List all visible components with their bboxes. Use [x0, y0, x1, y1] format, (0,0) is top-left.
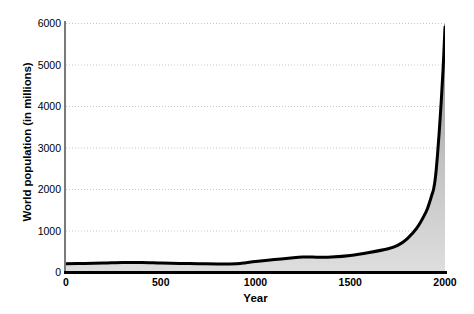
y-axis-tick-label: 4000 — [28, 101, 61, 112]
y-axis-tick-label: 0 — [28, 267, 61, 278]
x-axis-tick-label: 500 — [152, 277, 170, 288]
x-axis-title: Year — [66, 293, 445, 305]
area-fill-path — [66, 27, 445, 272]
y-axis-tick-label: 5000 — [28, 60, 61, 71]
x-axis-tick-label: 1500 — [339, 277, 362, 288]
y-axis-tick-labels: 0100020003000400050006000 — [28, 0, 61, 314]
x-axis-tick-labels: 0500100015002000 — [0, 277, 474, 293]
plot-area — [66, 23, 445, 272]
x-axis-line — [64, 271, 447, 274]
x-axis-tick-label: 2000 — [433, 277, 456, 288]
y-axis-tick-label: 1000 — [28, 226, 61, 237]
population-area-chart — [66, 23, 445, 272]
x-axis-tick-label: 1000 — [244, 277, 267, 288]
chart-container: World population (in millions) 010002000… — [0, 0, 474, 314]
population-line-path — [66, 27, 445, 264]
y-axis-tick-label: 2000 — [28, 184, 61, 195]
y-axis-tick-label: 3000 — [28, 143, 61, 154]
x-axis-tick-label: 0 — [63, 277, 69, 288]
y-axis-tick-label: 6000 — [28, 18, 61, 29]
gridlines — [66, 24, 445, 232]
